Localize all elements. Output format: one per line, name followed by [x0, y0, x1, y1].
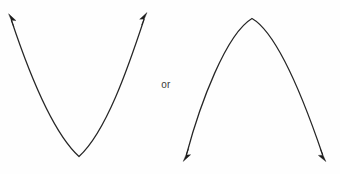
downward-parabola-group: [183, 19, 326, 162]
downward-parabola-right-arrowhead: [318, 149, 326, 162]
upward-parabola-curve: [12, 20, 145, 157]
parabola-figure: or: [0, 0, 340, 174]
downward-parabola-curve: [187, 19, 323, 155]
or-connector-label: or: [154, 79, 178, 91]
upward-parabola-group: [9, 13, 147, 157]
